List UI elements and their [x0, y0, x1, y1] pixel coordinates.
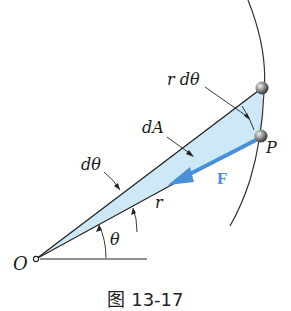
label-r: r — [155, 195, 163, 211]
label-P: P — [266, 140, 277, 156]
origin-point — [33, 256, 38, 261]
dtheta-arrowhead-icon — [114, 183, 120, 190]
r-dtheta-leader — [205, 87, 248, 117]
label-F: F — [217, 170, 227, 187]
label-theta: θ — [110, 232, 120, 248]
particle-upper — [256, 82, 269, 95]
label-dA: dA — [142, 120, 164, 136]
label-dtheta: dθ — [81, 157, 101, 173]
label-r-dtheta: r dθ — [167, 72, 200, 88]
label-O: O — [13, 255, 28, 273]
figure-caption: 图 13-17 — [0, 285, 291, 311]
radius-line-upper — [36, 88, 262, 259]
